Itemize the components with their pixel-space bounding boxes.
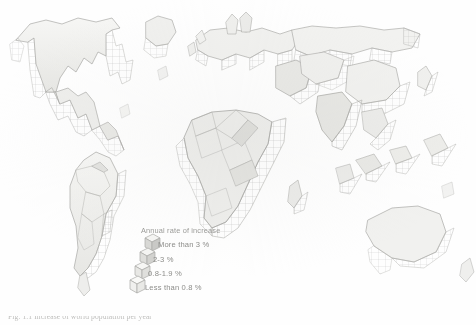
figure-caption: Fig. 1.1 Increase of world population pe… [8,316,243,325]
region-south-america [70,152,126,296]
legend-item-less-than-0-8: Less than 0.8 % [145,283,202,292]
legend-swatch-3 [130,276,145,293]
legend-title: Annual rate of increase [141,226,220,235]
region-europe [188,12,300,70]
legend-item-2-3: 2-3 % [153,255,174,264]
region-australia [366,206,474,282]
region-asia [276,26,456,194]
region-north-america [10,16,176,156]
figure-canvas: Annual rate of increase More than 3 % 2-… [0,0,476,325]
legend-item-0-8-1-9: 0.8-1.9 % [148,269,182,278]
region-africa [176,110,308,238]
map-legend: Annual rate of increase More than 3 % 2-… [133,226,253,300]
figure-caption-text: Fig. 1.1 Increase of world population pe… [8,316,243,321]
legend-item-more-than-3: More than 3 % [158,240,209,249]
